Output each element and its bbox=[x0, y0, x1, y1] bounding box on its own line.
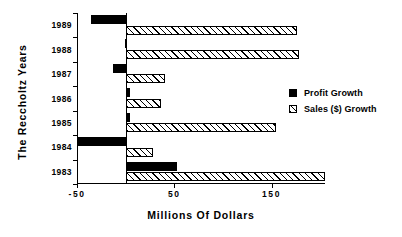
y-axis-tick-label: 1985 bbox=[28, 118, 72, 128]
x-axis-tick bbox=[174, 184, 175, 188]
bar-profit-1984 bbox=[78, 137, 126, 146]
x-axis-title: Millions Of Dollars bbox=[77, 209, 325, 221]
bar-sales-1987 bbox=[126, 74, 165, 83]
bar-sales-1983 bbox=[126, 172, 325, 181]
x-axis-spine bbox=[77, 183, 325, 184]
legend-swatch-sales-icon bbox=[289, 105, 297, 113]
bar-sales-1985 bbox=[126, 123, 277, 132]
x-axis-tick-label: 50 bbox=[168, 189, 181, 199]
y-axis-spine bbox=[77, 13, 78, 184]
y-axis-tick bbox=[73, 86, 77, 87]
y-axis-tick bbox=[73, 37, 77, 38]
y-axis-tick bbox=[73, 62, 77, 63]
plot-area bbox=[77, 13, 325, 184]
y-axis-tick-labels: 1989198819871986198519841983 bbox=[24, 0, 72, 237]
legend-item-profit-growth: Profit Growth bbox=[289, 86, 399, 100]
bar-sales-1986 bbox=[126, 99, 161, 108]
legend-item-sales-growth: Sales ($) Growth bbox=[289, 102, 399, 116]
y-axis-tick bbox=[73, 160, 77, 161]
legend-label-sales: Sales ($) Growth bbox=[304, 104, 377, 114]
legend-swatch-profit-icon bbox=[289, 89, 297, 97]
bar-sales-1989 bbox=[126, 26, 297, 35]
x-axis-tick-label: 150 bbox=[262, 189, 281, 199]
y-axis-tick bbox=[73, 13, 77, 14]
y-axis-tick bbox=[73, 111, 77, 112]
bar-profit-1987 bbox=[113, 64, 126, 73]
y-axis-tick-label: 1988 bbox=[28, 45, 72, 55]
bar-profit-1985 bbox=[126, 113, 131, 122]
y-axis-tick bbox=[73, 135, 77, 136]
x-axis-tick-label: -50 bbox=[68, 189, 85, 199]
y-axis-tick-label: 1984 bbox=[28, 142, 72, 152]
y-axis-tick-label: 1987 bbox=[28, 69, 72, 79]
x-axis-tick bbox=[272, 184, 273, 188]
y-axis-tick-label: 1989 bbox=[28, 20, 72, 30]
bar-profit-1989 bbox=[91, 15, 126, 24]
bar-profit-1986 bbox=[126, 88, 130, 97]
bar-sales-1988 bbox=[126, 50, 299, 59]
y-axis-tick-label: 1986 bbox=[28, 94, 72, 104]
y-axis-tick-label: 1983 bbox=[28, 167, 72, 177]
bar-chart: The Reccholtz Years 19891988198719861985… bbox=[0, 0, 402, 237]
chart-legend: Profit Growth Sales ($) Growth bbox=[289, 86, 399, 118]
bar-profit-1988 bbox=[125, 39, 127, 48]
x-axis-tick bbox=[77, 184, 78, 188]
bar-profit-1983 bbox=[126, 162, 178, 171]
bar-sales-1984 bbox=[126, 148, 153, 157]
legend-label-profit: Profit Growth bbox=[304, 88, 363, 98]
